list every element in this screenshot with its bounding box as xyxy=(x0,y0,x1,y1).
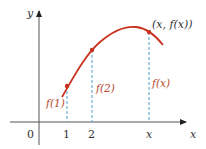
origin-label: 0 xyxy=(27,128,34,141)
tick-label-1: 1 xyxy=(63,128,70,141)
point-label-x-fx: (x, f(x)) xyxy=(152,18,193,31)
x-axis-label: x xyxy=(190,128,197,141)
point-f1 xyxy=(65,84,69,88)
height-label-fx: f(x) xyxy=(151,77,170,89)
tick-label-x: x xyxy=(146,128,153,141)
point-f2 xyxy=(90,48,94,52)
height-label-f2: f(2) xyxy=(95,82,115,94)
point-fx xyxy=(147,30,151,34)
y-axis-label: y xyxy=(26,7,34,20)
tick-label-2: 2 xyxy=(88,128,95,141)
height-label-f1: f(1) xyxy=(45,97,65,109)
function-diagram: y x 0 1 2 x f(1) f(2) f(x) (x, f(x)) xyxy=(0,0,206,149)
